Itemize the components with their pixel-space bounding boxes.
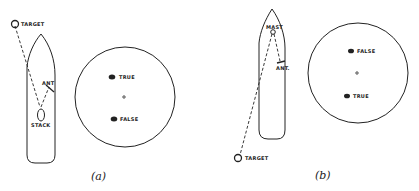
echo-path xyxy=(240,34,272,155)
false-echo-blip xyxy=(348,49,354,54)
true-echo-blip xyxy=(109,75,116,80)
stack-label: STACK xyxy=(31,122,51,128)
stack-icon xyxy=(38,109,45,121)
antenna-icon xyxy=(277,61,285,63)
panel-a: TARGET ANT STACK TRUE FALSE (a) xyxy=(12,21,176,184)
echo-path xyxy=(274,34,280,61)
true-label: TRUE xyxy=(353,93,369,99)
mast-icon xyxy=(271,30,276,35)
false-label: FALSE xyxy=(357,48,376,54)
radar-false-echo-diagram: TARGET ANT STACK TRUE FALSE (a) MAST ANT… xyxy=(0,0,419,191)
true-echo-blip xyxy=(344,94,350,99)
ant-label: ANT. xyxy=(276,65,290,71)
target-icon xyxy=(235,155,242,162)
true-label: TRUE xyxy=(119,74,135,80)
scope-center-icon xyxy=(123,96,125,98)
ant-label: ANT xyxy=(42,80,55,86)
mast-label: MAST xyxy=(266,24,283,30)
echo-path xyxy=(41,87,49,107)
ship-hull xyxy=(27,34,55,163)
false-label: FALSE xyxy=(120,116,139,122)
target-label: TARGET xyxy=(21,21,45,27)
target-label: TARGET xyxy=(245,155,269,161)
caption-a: (a) xyxy=(91,170,106,183)
scope-center-icon xyxy=(356,72,358,74)
false-echo-blip xyxy=(111,117,118,122)
caption-b: (b) xyxy=(315,169,331,182)
panel-b: MAST ANT. TARGET FALSE TRUE (b) xyxy=(235,9,409,182)
